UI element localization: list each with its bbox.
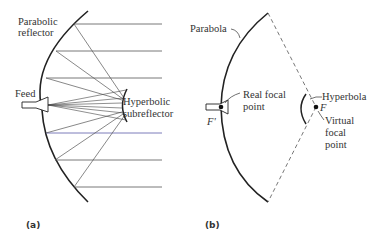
- panel-b: Parabola Real focal point F' Hyperbola F…: [190, 13, 367, 230]
- panel-a-caption: (a): [26, 220, 40, 230]
- feed-label: Feed: [15, 88, 36, 99]
- real-focal-label-1: Real focal: [243, 89, 286, 100]
- subreflector-label-1: Hyperbolic: [123, 96, 171, 107]
- real-focal-label-2: point: [243, 101, 265, 112]
- virtual-focal-label-2: focal: [325, 127, 346, 138]
- panel-b-caption: (b): [205, 220, 220, 230]
- hyperbola-curve: [301, 94, 306, 124]
- real-focal-point: [219, 105, 224, 110]
- dashed-lines: [268, 13, 316, 202]
- feed-rays: [48, 90, 126, 120]
- feed-horn-icon: [22, 97, 48, 112]
- parabola-label: Parabola: [190, 23, 227, 34]
- panel-a: Parabolic reflector Feed Hyperbolic subr…: [15, 11, 174, 230]
- reflector-label-2: reflector: [18, 27, 54, 38]
- virtual-focal-point: [314, 105, 319, 110]
- cassegrain-diagram: Parabolic reflector Feed Hyperbolic subr…: [0, 0, 375, 240]
- feed-horn-icon: [206, 100, 228, 114]
- hyperbola-label: Hyperbola: [322, 91, 367, 102]
- f-label: F: [319, 102, 327, 113]
- reflector-label-1: Parabolic: [18, 16, 58, 27]
- virtual-focal-label-3: point: [325, 139, 347, 150]
- subreflector-label-2: subreflector: [123, 108, 174, 119]
- virtual-focal-label-1: Virtual: [325, 115, 354, 126]
- f-prime-label: F': [206, 116, 216, 127]
